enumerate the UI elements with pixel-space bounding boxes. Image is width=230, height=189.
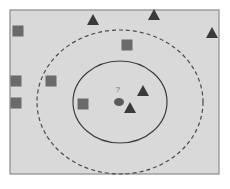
square-point	[46, 76, 57, 87]
square-point	[122, 40, 133, 51]
plot-frame	[10, 10, 219, 174]
square-point	[13, 26, 24, 37]
query-label: ?	[116, 85, 120, 94]
query-point	[114, 98, 124, 106]
square-point	[11, 98, 22, 109]
square-point	[78, 99, 89, 110]
square-point	[11, 76, 22, 87]
knn-diagram: ?	[0, 0, 230, 189]
